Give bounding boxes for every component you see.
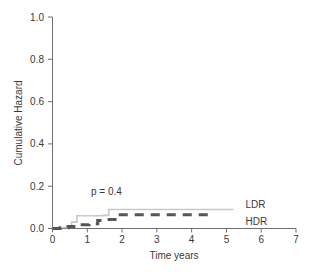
series-label-hdr: HDR — [246, 216, 268, 227]
x-tick-label: 3 — [154, 234, 160, 245]
y-tick-label: 0.2 — [30, 181, 44, 192]
x-tick-label: 5 — [224, 234, 230, 245]
y-tick-label: 0.6 — [30, 96, 44, 107]
y-tick-label: 0.8 — [30, 54, 44, 65]
x-tick-group: 01234567 — [50, 229, 300, 246]
series-label-ldr: LDR — [246, 199, 266, 210]
y-tick-label: 0.0 — [30, 223, 44, 234]
x-axis-title: Time years — [149, 250, 198, 261]
x-tick-label: 6 — [258, 234, 264, 245]
x-tick-label: 1 — [85, 234, 91, 245]
cumulative-hazard-chart: 0.00.20.40.60.81.0 01234567 LDR HDR p = … — [0, 0, 319, 274]
chart-canvas: 0.00.20.40.60.81.0 01234567 LDR HDR p = … — [0, 0, 319, 274]
y-tick-label: 1.0 — [30, 12, 44, 23]
series-group — [53, 209, 234, 228]
y-axis-title: Cumulative Hazard — [13, 80, 24, 165]
x-tick-label: 4 — [189, 234, 195, 245]
x-tick-label: 0 — [50, 234, 56, 245]
y-tick-label: 0.4 — [30, 138, 44, 149]
x-tick-label: 7 — [293, 234, 299, 245]
y-tick-group: 0.00.20.40.60.81.0 — [30, 12, 52, 235]
p-value-annotation: p = 0.4 — [91, 186, 122, 197]
x-tick-label: 2 — [119, 234, 125, 245]
series-path-ldr — [53, 209, 234, 228]
